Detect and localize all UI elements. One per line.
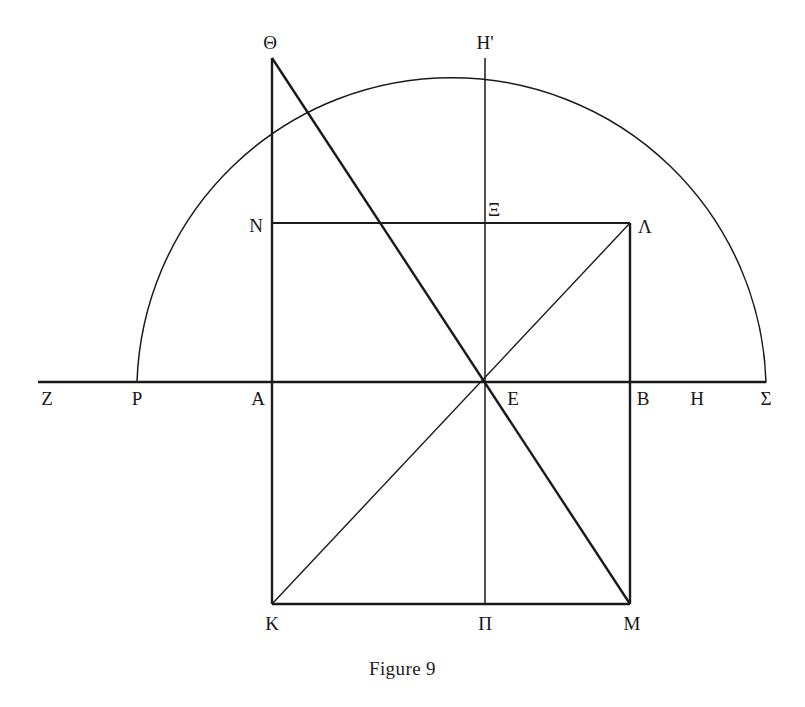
point-label-l: Λ — [638, 217, 652, 236]
point-label-xi: Ξ — [488, 200, 500, 219]
point-label-m: M — [624, 614, 641, 633]
point-label-n: N — [249, 216, 263, 235]
diagonal-theta-m — [272, 58, 630, 604]
point-label-e: E — [507, 389, 519, 408]
figure-caption: Figure 9 — [0, 658, 805, 680]
diagonal-k-lambda — [272, 223, 630, 604]
point-label-s: Σ — [760, 389, 771, 408]
geometric-diagram — [0, 0, 805, 707]
point-label-z: Z — [41, 389, 53, 408]
point-label-a: A — [251, 389, 265, 408]
point-label-hp: H' — [476, 33, 493, 52]
figure-container: ZPAEBHΣΘH'NΞΛKΠM Figure 9 — [0, 0, 805, 707]
point-label-pi: Π — [478, 614, 492, 633]
point-label-th: Θ — [263, 33, 277, 52]
point-label-p: P — [132, 389, 143, 408]
point-label-k: K — [265, 614, 279, 633]
point-label-h: H — [690, 389, 704, 408]
semicircle-arc-p-sigma — [137, 78, 766, 382]
point-label-b: B — [637, 389, 650, 408]
